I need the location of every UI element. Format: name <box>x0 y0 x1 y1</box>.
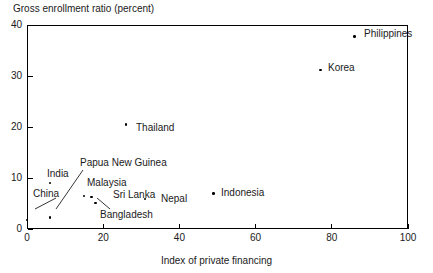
x-tick-label: 40 <box>159 232 199 244</box>
y-tick-label: 20 <box>0 121 22 133</box>
x-tick-mark <box>103 224 104 229</box>
plot-area-frame <box>27 25 408 229</box>
y-tick-mark <box>28 229 33 230</box>
y-tick-mark <box>28 76 33 77</box>
data-point <box>212 192 215 195</box>
x-axis-title: Index of private financing <box>0 255 433 267</box>
x-tick-label: 80 <box>312 232 352 244</box>
point-label: Nepal <box>161 193 187 205</box>
point-label: Malaysia <box>87 177 126 189</box>
y-tick-label: 40 <box>0 19 22 31</box>
point-label: Indonesia <box>221 187 264 199</box>
point-label: Bangladesh <box>100 209 153 221</box>
x-tick-label: 60 <box>236 232 276 244</box>
point-label: Thailand <box>136 122 174 134</box>
data-point <box>319 69 322 72</box>
point-label: Korea <box>328 62 355 74</box>
x-tick-mark <box>255 224 256 229</box>
x-tick-mark <box>179 224 180 229</box>
y-tick-label: 0 <box>0 223 22 235</box>
y-tick-mark <box>28 127 33 128</box>
point-label: India <box>47 168 69 180</box>
point-label: Philippines <box>364 28 412 40</box>
y-tick-label: 10 <box>0 172 22 184</box>
data-point <box>353 35 356 38</box>
point-label: Papua New Guinea <box>80 157 167 169</box>
scatter-chart: Gross enrollment ratio (percent) 0204060… <box>0 0 433 273</box>
x-tick-mark <box>408 224 409 229</box>
y-axis-title: Gross enrollment ratio (percent) <box>13 3 154 15</box>
point-label: Sri Lanka <box>113 189 155 201</box>
y-tick-mark <box>28 178 33 179</box>
x-tick-mark <box>331 224 332 229</box>
x-tick-label: 20 <box>83 232 123 244</box>
y-tick-label: 30 <box>0 70 22 82</box>
y-tick-mark <box>28 25 33 26</box>
x-tick-label: 100 <box>388 232 428 244</box>
point-label: China <box>33 188 59 200</box>
